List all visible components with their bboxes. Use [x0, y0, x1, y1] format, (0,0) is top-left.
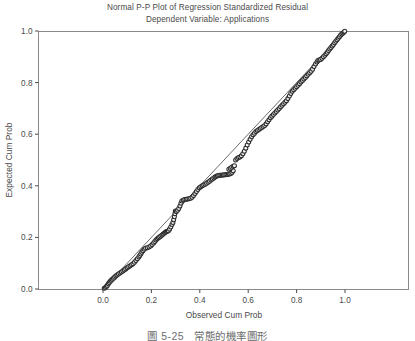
x-axis-tick-label: 0.6 — [243, 296, 255, 305]
y-axis-tick-label: 0.4 — [21, 182, 33, 191]
y-axis-tick-label: 0.8 — [21, 79, 33, 88]
y-axis-title: Expected Cum Prob — [4, 122, 14, 197]
x-axis-tick-label: 0.2 — [146, 296, 158, 305]
figure-caption: 圖 5-25常態的機率圖形 — [0, 328, 415, 341]
y-axis-tick-label: 0.0 — [21, 285, 33, 294]
y-axis-tick-label: 1.0 — [21, 27, 33, 36]
axis-labels-group: 0.00.20.40.60.81.00.00.20.40.60.81.0Obse… — [4, 27, 351, 320]
plot-canvas: 0.00.20.40.60.81.00.00.20.40.60.81.0Obse… — [0, 0, 415, 341]
x-axis-tick-label: 0.8 — [291, 296, 303, 305]
data-point — [232, 164, 236, 168]
normal-pp-plot-figure: Normal P-P Plot of Regression Standardiz… — [0, 0, 415, 341]
data-point — [343, 29, 347, 33]
x-axis-title: Observed Cum Prob — [186, 310, 263, 320]
x-axis-tick-label: 1.0 — [339, 296, 351, 305]
figure-caption-text: 常態的機率圖形 — [194, 330, 268, 341]
figure-caption-number: 圖 5-25 — [147, 330, 184, 341]
reference-line-group — [103, 31, 345, 289]
diagonal-reference-line — [103, 31, 345, 289]
x-axis-tick-label: 0.0 — [97, 296, 109, 305]
x-axis-tick-label: 0.4 — [194, 296, 206, 305]
y-axis-tick-label: 0.6 — [21, 130, 33, 139]
y-axis-tick-label: 0.2 — [21, 233, 33, 242]
